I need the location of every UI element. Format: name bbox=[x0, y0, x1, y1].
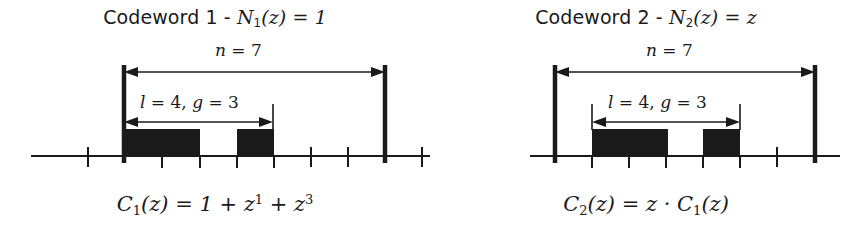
panel-1-span-var: n bbox=[215, 40, 226, 60]
panel-1-window-eq-l: = bbox=[145, 92, 170, 112]
panel-2-window-eq-l: = bbox=[613, 92, 638, 112]
panel-1-bar-1 bbox=[124, 129, 200, 157]
panel-1-window-val-l: 4, bbox=[171, 92, 193, 112]
panel-1-span-arrow bbox=[124, 67, 385, 77]
panel-2-window-var-g: g bbox=[660, 92, 671, 112]
panel-1-span-label: n = 7 bbox=[215, 40, 262, 60]
panel-2-span-var: n bbox=[646, 40, 657, 60]
panel-codeword-2: Codeword 2 - N2(z) = z bbox=[431, 0, 861, 235]
panel-1-formula-lead: C bbox=[117, 192, 133, 216]
panel-1-formula-mid: + z bbox=[263, 192, 305, 216]
panel-1-span-value: 7 bbox=[251, 40, 262, 60]
panel-2-span-eq: = bbox=[657, 40, 682, 60]
panel-2-window-eq-g: = bbox=[671, 92, 696, 112]
panel-1-span-eq: = bbox=[226, 40, 251, 60]
panel-2-formula: C2(z) = z · C1(z) bbox=[431, 192, 861, 218]
panel-2-bar-1 bbox=[592, 129, 668, 157]
panel-1-window-label: l = 4, g = 3 bbox=[140, 92, 239, 112]
panel-2-formula-tail: (z) bbox=[701, 192, 728, 216]
panel-2-formula-lead-sub: 2 bbox=[579, 203, 587, 218]
panel-1-formula-lead-sub: 1 bbox=[133, 203, 141, 218]
panel-2-span-arrow bbox=[555, 67, 815, 77]
panel-1-formula-sup-1: 1 bbox=[255, 192, 263, 207]
panel-1-formula-sup-2: 3 bbox=[305, 192, 313, 207]
panel-2-window-val-l: 4, bbox=[639, 92, 661, 112]
panel-2-span-label: n = 7 bbox=[646, 40, 693, 60]
panel-2-formula-lead: C bbox=[563, 192, 579, 216]
panel-1-formula: C1(z) = 1 + z1 + z3 bbox=[0, 192, 430, 218]
panel-1-window-var-g: g bbox=[192, 92, 203, 112]
codeword-polynomial-figure: Codeword 1 - N1(z) = 1 bbox=[0, 0, 861, 235]
panel-2-formula-rest: (z) = z · C bbox=[588, 192, 694, 216]
panel-1-window-val-g: 3 bbox=[228, 92, 239, 112]
panel-2-window-label: l = 4, g = 3 bbox=[608, 92, 707, 112]
panel-1-formula-rest: (z) = 1 + z bbox=[141, 192, 255, 216]
panel-2-bar-2 bbox=[703, 129, 740, 157]
panel-1-bar-2 bbox=[237, 129, 274, 157]
panel-1-window-eq-g: = bbox=[203, 92, 228, 112]
panel-2-span-value: 7 bbox=[682, 40, 693, 60]
panel-2-window-val-g: 3 bbox=[696, 92, 707, 112]
panel-codeword-1: Codeword 1 - N1(z) = 1 bbox=[0, 0, 430, 235]
